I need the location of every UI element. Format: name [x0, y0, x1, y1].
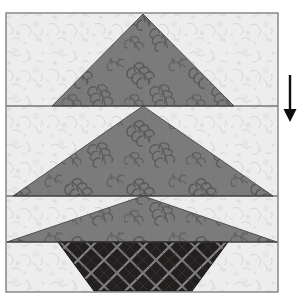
arrow-head-icon: [284, 109, 297, 122]
quilt-block-illustration: [0, 0, 298, 302]
pressing-direction-arrow: [284, 75, 297, 122]
quilt-block-figure: [0, 0, 298, 302]
